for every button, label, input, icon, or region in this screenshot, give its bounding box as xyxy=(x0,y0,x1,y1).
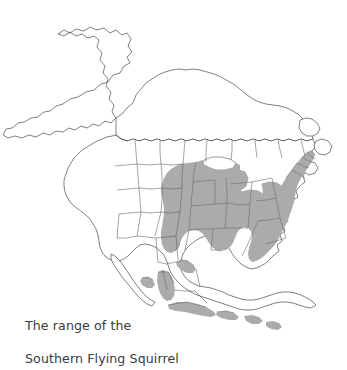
map-caption: The range of the Southern Flying Squirre… xyxy=(25,301,240,370)
caption-line-2: Southern Flying Squirrel xyxy=(25,351,240,368)
range-patch-chiapas-guatemala xyxy=(244,315,263,324)
range-patch-honduras xyxy=(266,321,282,330)
region-alaska xyxy=(3,27,132,138)
region-newfoundland xyxy=(314,139,332,155)
region-canada-west xyxy=(116,69,313,141)
caption-line-1: The range of the xyxy=(25,318,240,335)
range-patch-sierra-madre-occidental xyxy=(140,277,155,288)
region-maritimes xyxy=(299,118,320,136)
landmass-outlines xyxy=(3,27,332,310)
